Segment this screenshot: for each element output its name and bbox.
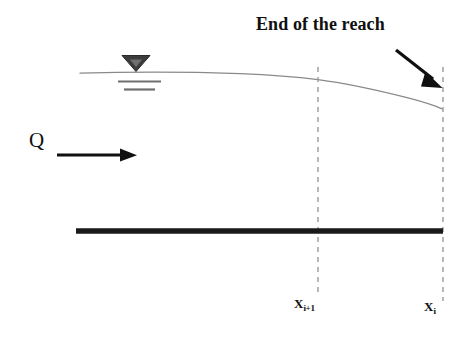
station-label-x-i: Xi [424, 300, 436, 313]
discharge-q-label: Q [29, 130, 44, 151]
flow-direction-arrow-icon [57, 149, 137, 162]
station-label-subscript: i+1 [303, 303, 314, 313]
diagram-canvas [0, 0, 468, 339]
station-label-subscript: i [433, 306, 435, 316]
station-label-x-i-plus-1: Xi+1 [294, 297, 315, 310]
end-of-reach-title-label: End of the reach [256, 15, 385, 33]
hydraulic-reach-diagram: End of the reach Q Xi+1 Xi [0, 0, 468, 339]
station-label-base: X [424, 299, 433, 314]
station-label-base: X [294, 296, 303, 311]
callout-arrow-icon [396, 50, 443, 88]
